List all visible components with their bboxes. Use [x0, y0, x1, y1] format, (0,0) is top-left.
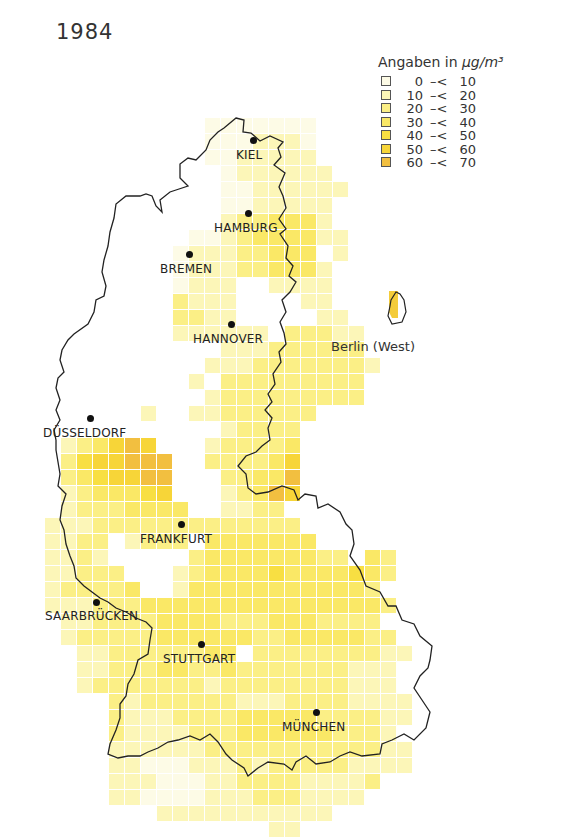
city-marker-icon: [313, 709, 320, 716]
city-label: HAMBURG: [214, 221, 278, 235]
city-label: KIEL: [236, 148, 262, 162]
city-marker-icon: [245, 210, 252, 217]
city-marker-icon: [87, 415, 94, 422]
city-label: MÜNCHEN: [282, 720, 345, 734]
city-label: BREMEN: [160, 262, 212, 276]
city-marker-icon: [178, 521, 185, 528]
city-label: HANNOVER: [193, 332, 263, 346]
city-label: STUTTGART: [163, 652, 235, 666]
city-marker-icon: [250, 137, 257, 144]
city-label: FRANKFURT: [140, 532, 212, 546]
city-marker-icon: [186, 251, 193, 258]
berlin-west-label: Berlin (West): [331, 339, 415, 354]
city-marker-icon: [93, 599, 100, 606]
city-label: SAARBRÜCKEN: [45, 609, 138, 623]
city-label: DÜSSELDORF: [43, 426, 126, 440]
city-marker-icon: [228, 321, 235, 328]
city-marker-icon: [198, 641, 205, 648]
